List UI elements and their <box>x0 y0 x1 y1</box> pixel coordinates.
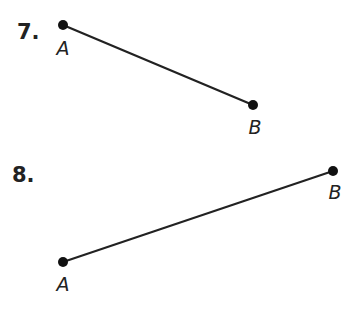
point-8-B <box>328 166 338 176</box>
point-7-A <box>58 20 68 30</box>
diagram-canvas <box>0 0 353 317</box>
segment-line-8-AB <box>63 171 333 262</box>
problem-number-8: 8. <box>12 163 35 187</box>
problem-number-7: 7. <box>17 20 40 44</box>
point-label-7-A: A <box>57 37 70 59</box>
segment-line-7-AB <box>63 25 253 105</box>
point-label-8-A: A <box>57 273 70 295</box>
point-label-8-B: B <box>328 181 341 203</box>
segment-8 <box>58 166 338 267</box>
segment-7 <box>58 20 258 110</box>
point-label-7-B: B <box>248 116 261 138</box>
point-7-B <box>248 100 258 110</box>
point-8-A <box>58 257 68 267</box>
